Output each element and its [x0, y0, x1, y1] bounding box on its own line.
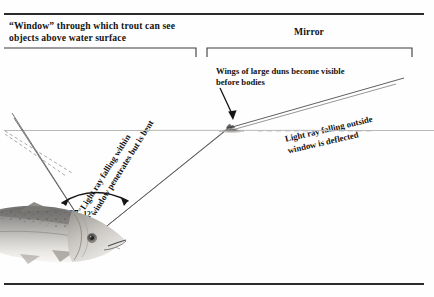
figure-container: “Window” through which trout can see obj… — [0, 0, 434, 297]
ray-incident-dashed — [5, 131, 72, 176]
span-bracket-window — [4, 48, 196, 57]
angle-arc-icon — [62, 192, 128, 203]
ray-deflected-outside — [227, 78, 404, 129]
diagram-artwork — [0, 0, 434, 297]
mayfly-dun-insect — [219, 124, 244, 133]
ray-window-right — [92, 129, 227, 238]
trout-fish-photo — [0, 202, 126, 264]
ray-deflected-surface — [232, 84, 396, 130]
arrow-pointer-icon — [220, 88, 237, 120]
span-bracket-mirror — [207, 48, 412, 57]
angle-arc-arrowheads — [62, 198, 128, 206]
